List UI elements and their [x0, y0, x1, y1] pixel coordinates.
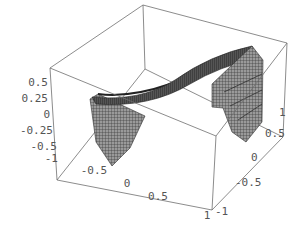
- y-tick: -1: [215, 205, 228, 218]
- y-tick: -0.5: [235, 176, 262, 189]
- z-tick: 0: [43, 108, 50, 121]
- y-tick: 0.5: [265, 127, 285, 140]
- z-tick: 0.25: [22, 92, 49, 105]
- z-tick: 0.5: [28, 76, 48, 89]
- y-tick: 1: [279, 106, 286, 119]
- y-tick: 0: [251, 151, 258, 164]
- x-tick: 0.5: [148, 190, 168, 203]
- x-tick: -1: [45, 152, 58, 165]
- x-tick: 0: [124, 177, 131, 190]
- z-tick: -0.25: [20, 124, 53, 137]
- x-axis-ticks: -1 -0.5 0 0.5 1: [45, 152, 211, 222]
- surface-plot: 0.5 0.25 0 -0.25 -0.5 -1 -0.5 0 0.5 1 -1…: [0, 0, 304, 231]
- x-tick: -0.5: [81, 164, 108, 177]
- x-tick: 1: [204, 209, 211, 222]
